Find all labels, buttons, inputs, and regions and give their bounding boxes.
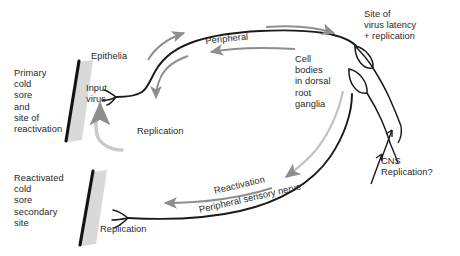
primary-cold-sore-label: Primary cold sore and site of reactivati…	[14, 68, 62, 135]
retrograde-from-ganglia-arrow	[156, 48, 295, 98]
virus-entry-replication-loop	[96, 104, 122, 150]
hsv-neuronal-cycle-diagram: Primary cold sore and site of reactivati…	[0, 0, 460, 256]
site-of-virus-latency-label: Site of virus latency + replication	[364, 9, 416, 43]
cns-replication-label: CNS Replication?	[381, 156, 433, 178]
cell-bodies-ganglia-label: Cell bodies in dorsal root ganglia	[295, 54, 331, 110]
epithelia-label: Epithelia	[91, 51, 127, 62]
replication-upper-label: Replication	[137, 126, 184, 137]
reactivated-cold-sore-label: Reactivated cold sore secondary site	[14, 173, 64, 229]
replication-lower-label: Replication	[100, 224, 147, 235]
input-virus-label: Input virus	[86, 83, 107, 105]
